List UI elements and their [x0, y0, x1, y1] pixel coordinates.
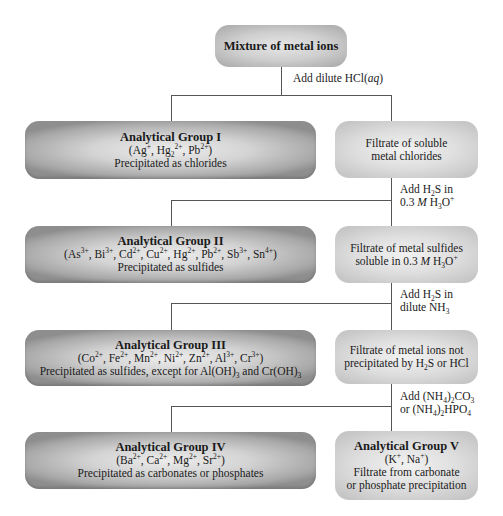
- connector-group4-down: [171, 406, 172, 432]
- start-title: Mixture of metal ions: [224, 40, 339, 53]
- group-2-ions: (As3+, Bi3+, Cd2+, Cu2+, Hg2+, Pb2+, Sb3…: [64, 248, 277, 261]
- connector-group2-down: [171, 200, 172, 226]
- connector-filtrate1-out: [391, 178, 392, 201]
- group-3-ions: (Co2+, Fe2+, Mn2+, Ni2+, Zn2+, Al3+, Cr3…: [78, 352, 264, 365]
- filtrate-2-box: Filtrate of metal sulfides soluble in 0.…: [335, 226, 478, 283]
- filtrate-2-line1: Filtrate of metal sulfides: [350, 242, 463, 255]
- connector-group3-down: [171, 303, 172, 330]
- reagent-label-2: Add H2S in0.3 M H3O+: [400, 183, 454, 209]
- connector-group5-down: [391, 406, 392, 431]
- filtrate-2-line2: soluble in 0.3 M H3O+: [355, 255, 457, 268]
- connector-branch-4: [171, 406, 392, 407]
- group-2-note: Precipitated as sulfides: [117, 261, 223, 274]
- group-4-box: Analytical Group IV (Ba2+, Ca2+, Mg2+, S…: [25, 432, 316, 489]
- group-4-ions: (Ba2+, Ca2+, Mg2+, Sr2+): [116, 454, 225, 467]
- filtrate-3-line1: Filtrate of metal ions not: [350, 344, 464, 357]
- connector-filtrate1-down: [391, 95, 392, 121]
- group-5-note-line2: or phosphate precipitation: [346, 479, 466, 492]
- filtrate-1-line2: metal chlorides: [371, 150, 442, 163]
- reagent-label-4: Add (NH4)2CO3or (NH4)2HPO4: [400, 390, 474, 416]
- connector-group1-down: [171, 95, 172, 121]
- filtrate-1-line1: Filtrate of soluble: [366, 137, 448, 150]
- connector-filtrate2-out: [391, 283, 392, 304]
- group-3-note: Precipitated as sulfides, except for Al(…: [40, 365, 302, 378]
- group-1-note: Precipitated as chlorides: [114, 157, 226, 170]
- reagent-label-1: Add dilute HCl(aq): [293, 72, 383, 85]
- connector-filtrate3-down: [391, 303, 392, 330]
- start-box: Mixture of metal ions: [215, 25, 347, 67]
- group-3-box: Analytical Group III (Co2+, Fe2+, Mn2+, …: [25, 330, 316, 386]
- group-2-box: Analytical Group II (As3+, Bi3+, Cd2+, C…: [25, 226, 316, 283]
- reagent-label-3: Add H2S indilute NH3: [400, 288, 453, 314]
- group-5-ions: (K+, Na+): [385, 453, 429, 466]
- connector-branch-2: [171, 200, 392, 201]
- group-5-title: Analytical Group V: [354, 440, 459, 453]
- group-1-box: Analytical Group I (Ag+, Hg22+, Pb2+) Pr…: [25, 121, 316, 179]
- group-4-note: Precipitated as carbonates or phosphates: [78, 467, 264, 480]
- filtrate-3-box: Filtrate of metal ions not precipitated …: [335, 330, 478, 384]
- group-5-note-line1: Filtrate from carbonate: [353, 466, 459, 479]
- connector-branch-1: [171, 95, 392, 96]
- filtrate-1-box: Filtrate of soluble metal chlorides: [335, 121, 478, 178]
- connector-filtrate3-out: [391, 384, 392, 407]
- group-5-box: Analytical Group V (K+, Na+) Filtrate fr…: [335, 431, 478, 500]
- filtrate-3-line2: precipitated by H2S or HCl: [344, 357, 469, 370]
- connector-start-down: [281, 67, 282, 95]
- connector-branch-3: [171, 303, 392, 304]
- connector-filtrate2-down: [391, 200, 392, 226]
- group-1-ions: (Ag+, Hg22+, Pb2+): [129, 144, 212, 157]
